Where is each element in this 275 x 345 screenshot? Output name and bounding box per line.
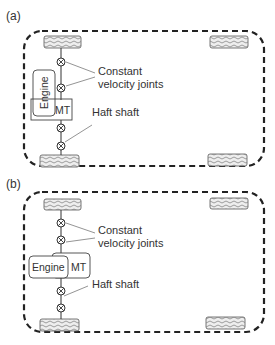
panel-b: (b) MT Engine Constant velocity joints [6, 177, 264, 332]
engine-label: Engine [32, 261, 65, 273]
cv-joint-icon [57, 304, 65, 312]
cv-joints-label-line2: velocity joints [98, 237, 164, 249]
panel-label-a: (a) [6, 9, 21, 23]
cv-joint-icon [57, 236, 65, 244]
panel-a: (a) Engine MT Constant velocity joint [6, 9, 264, 167]
panel-label-b: (b) [6, 177, 21, 191]
drivetrain-diagram: (a) Engine MT Constant velocity joint [0, 0, 275, 345]
leader-line [66, 238, 95, 242]
cv-joint-icon [57, 287, 65, 295]
cv-joints-label-line2: velocity joints [98, 78, 164, 90]
half-shaft-label: Haft shaft [92, 278, 139, 290]
cv-joints-label-line1: Constant [98, 65, 142, 77]
cv-joints-label-line1: Constant [98, 224, 142, 236]
leader-line [64, 286, 88, 296]
cv-joint-icon [57, 219, 65, 227]
leader-line [65, 125, 92, 142]
cv-joint-icon [57, 58, 65, 66]
cv-joint-icon [57, 84, 65, 92]
leader-line [66, 77, 95, 86]
cv-joint-icon [57, 124, 65, 132]
leader-line [66, 62, 95, 73]
half-shaft-label: Haft shaft [92, 106, 139, 118]
transmission-label: MT [71, 261, 87, 273]
transmission-label: MT [55, 104, 71, 116]
cv-joint-icon [57, 142, 65, 150]
engine-label: Engine [38, 76, 50, 109]
leader-line [66, 223, 95, 233]
